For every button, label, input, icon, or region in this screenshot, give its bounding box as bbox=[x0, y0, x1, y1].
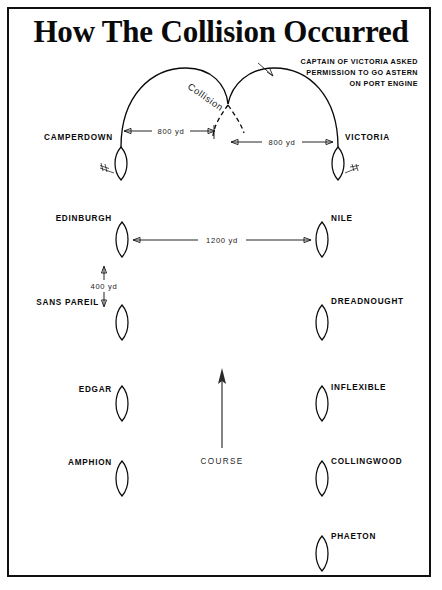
annotation-leader-arrowhead bbox=[267, 69, 273, 76]
ship-label-camperdown: CAMPERDOWN bbox=[44, 133, 113, 142]
diagram-canvas: Collision CAPTAIN OF VICTORIA ASKED PERM… bbox=[0, 0, 442, 590]
annotation-line-2: PERMISSION TO GO ASTERN bbox=[306, 68, 418, 77]
ship-label-sans-pareil: SANS PAREIL bbox=[36, 298, 99, 307]
collision-label: Collision bbox=[186, 81, 226, 113]
ship-label-nile: NILE bbox=[331, 214, 353, 223]
dim-right-label: 800 yd bbox=[269, 138, 296, 147]
ship-camperdown bbox=[115, 147, 127, 180]
ship-label-victoria: VICTORIA bbox=[345, 133, 390, 142]
dim-left-label: 800 yd bbox=[158, 127, 185, 136]
ship-nile bbox=[316, 222, 328, 257]
dim-columns-label: 1200 yd bbox=[206, 236, 238, 245]
ship-label-phaeton: PHAETON bbox=[331, 532, 376, 541]
ship-victoria bbox=[332, 147, 344, 180]
ship-dreadnought bbox=[316, 305, 328, 340]
ship-edinburgh bbox=[116, 222, 128, 257]
ship-label-inflexible: INFLEXIBLE bbox=[331, 383, 386, 392]
camperdown-stern-mark bbox=[100, 163, 114, 173]
diagram-page: How The Collision Occurred Collision CAP… bbox=[0, 0, 442, 590]
course-label: COURSE bbox=[201, 457, 244, 466]
dim-spacing-label: 400 yd bbox=[91, 282, 118, 291]
ship-label-edgar: EDGAR bbox=[79, 385, 112, 394]
ship-label-edinburgh: EDINBURGH bbox=[56, 214, 112, 223]
ship-amphion bbox=[116, 461, 128, 496]
ship-label-dreadnought: DREADNOUGHT bbox=[331, 297, 404, 306]
annotation-line-3: ON PORT ENGINE bbox=[349, 79, 418, 88]
ship-edgar bbox=[116, 386, 128, 421]
ship-phaeton bbox=[316, 536, 328, 571]
victoria-stern-mark bbox=[345, 164, 359, 173]
ship-collingwood bbox=[316, 461, 328, 496]
ship-label-amphion: AMPHION bbox=[68, 458, 112, 467]
ship-inflexible bbox=[316, 386, 328, 421]
victoria-dashed-arc bbox=[228, 105, 244, 133]
ship-sans-pareil bbox=[116, 305, 128, 340]
annotation-line-1: CAPTAIN OF VICTORIA ASKED bbox=[301, 57, 418, 66]
ship-label-collingwood: COLLINGWOOD bbox=[331, 457, 402, 466]
